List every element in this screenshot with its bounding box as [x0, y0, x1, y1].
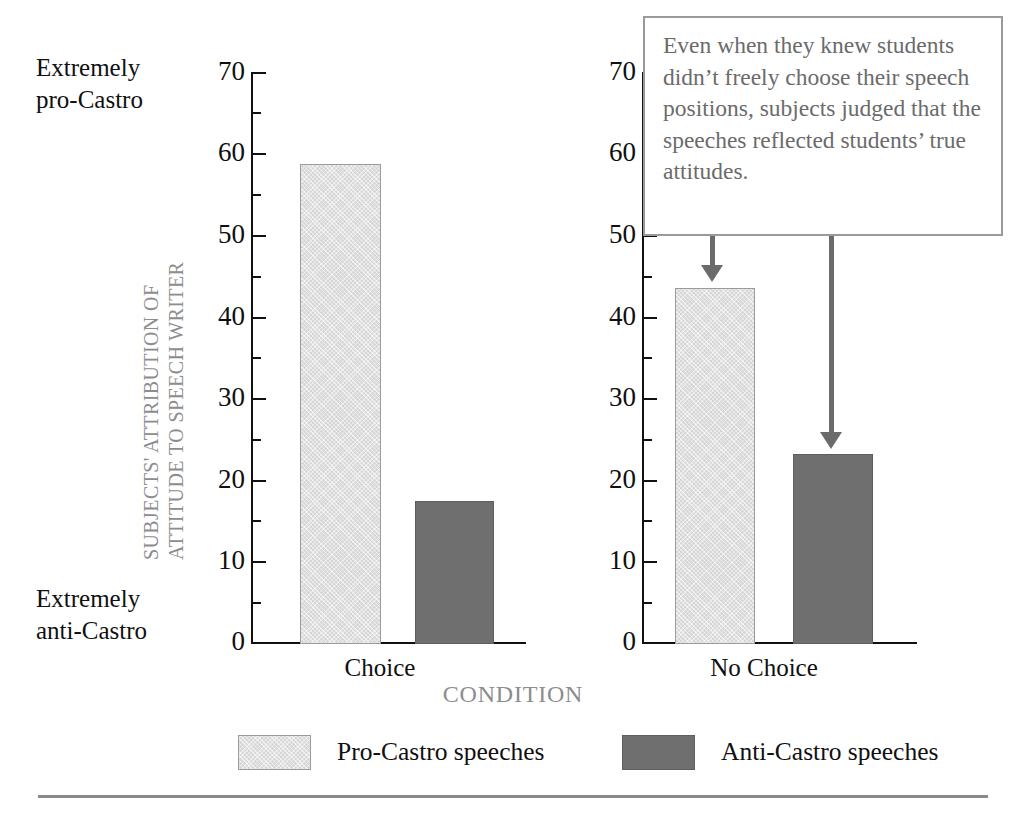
- y-tick-label-40-right: 40: [609, 301, 636, 331]
- y-axis-title-line1: SUBJECTS' ATTRIBUTION OF: [140, 285, 163, 560]
- y-tick-label-70-right: 70: [609, 56, 636, 86]
- y-tick-label-50-left: 50: [218, 219, 245, 249]
- x-category-label-no-choice: No Choice: [684, 654, 844, 682]
- annotation-callout: Even when they knew students didn’t free…: [643, 16, 1003, 236]
- bar-no-choice-anti-castro[interactable]: [793, 454, 873, 644]
- legend-label-anti-castro: Anti-Castro speeches: [721, 737, 938, 767]
- y-axis-title-line2: ATTITUDE TO SPEECH WRITER: [165, 262, 188, 560]
- annotation-arrow-2-stem: [829, 236, 834, 444]
- x-category-label-choice: Choice: [325, 654, 435, 682]
- y-tick-label-0-left: 0: [232, 626, 246, 656]
- legend: Pro-Castro speeches Anti-Castro speeches: [0, 730, 1026, 774]
- y-tick-label-60-right: 60: [609, 137, 636, 167]
- bottom-divider: [38, 795, 988, 798]
- legend-swatch-light-icon: [238, 735, 311, 770]
- annotation-arrow-1-head-icon: [701, 265, 723, 282]
- y-tick-label-10-left: 10: [218, 545, 245, 575]
- x-axis-title: CONDITION: [0, 681, 1026, 708]
- annotation-text: Even when they knew students didn’t free…: [663, 30, 985, 188]
- bars-area-choice: [253, 72, 528, 644]
- y-tick-label-20-left: 20: [218, 464, 245, 494]
- legend-label-pro-castro: Pro-Castro speeches: [337, 737, 545, 767]
- y-tick-label-30-right: 30: [609, 382, 636, 412]
- y-tick-label-60-left: 60: [218, 137, 245, 167]
- y-tick-label-50-right: 50: [609, 219, 636, 249]
- legend-item-anti-castro[interactable]: Anti-Castro speeches: [622, 730, 938, 774]
- y-tick-label-40-left: 40: [218, 301, 245, 331]
- y-tick-label-20-right: 20: [609, 464, 636, 494]
- y-tick-label-0-right: 0: [623, 626, 637, 656]
- y-axis-title: SUBJECTS' ATTRIBUTION OF ATTITUDE TO SPE…: [0, 0, 60, 640]
- legend-swatch-dark-icon: [622, 735, 695, 770]
- bar-choice-pro-castro[interactable]: [300, 164, 381, 644]
- plot-panel-choice: 70 60 50 40 30 20 10 0 Choice: [195, 60, 530, 645]
- bar-choice-anti-castro[interactable]: [415, 501, 494, 644]
- annotation-arrow-2-head-icon: [820, 432, 842, 449]
- y-tick-label-10-right: 10: [609, 545, 636, 575]
- bar-no-choice-pro-castro[interactable]: [675, 288, 755, 644]
- y-tick-label-30-left: 30: [218, 382, 245, 412]
- legend-item-pro-castro[interactable]: Pro-Castro speeches: [238, 730, 545, 774]
- y-tick-label-70-left: 70: [218, 56, 245, 86]
- chart-figure: Extremely pro-Castro Extremely anti-Cast…: [0, 0, 1026, 817]
